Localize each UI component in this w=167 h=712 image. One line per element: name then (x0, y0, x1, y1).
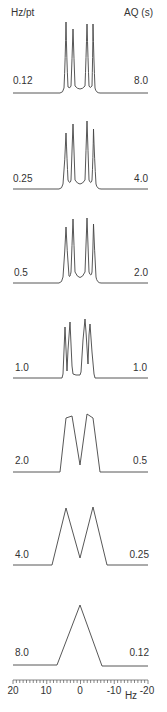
hz-per-pt-label: 1.0 (15, 362, 29, 373)
hz-per-pt-label: 0.5 (14, 267, 28, 278)
aq-label: 1.0 (133, 362, 147, 373)
x-tick-label: 0 (77, 685, 83, 696)
trace-7 (13, 605, 148, 666)
aq-label: 0.12 (130, 647, 150, 658)
aq-label: 0.25 (130, 549, 150, 560)
hz-per-pt-label: 8.0 (15, 647, 29, 658)
x-axis-unit-label: Hz (125, 690, 137, 701)
trace-3 (13, 218, 148, 283)
hz-per-pt-label: 0.25 (13, 173, 33, 184)
trace-5 (13, 414, 148, 472)
hz-per-pt-label: 0.12 (13, 75, 33, 86)
x-axis (13, 680, 148, 684)
spectra-chart: 0.12 8.0 0.25 4.0 0.5 2.0 1.0 1.0 2.0 0.… (0, 0, 167, 712)
x-tick-label: -20 (140, 685, 155, 696)
hz-per-pt-label: 2.0 (15, 455, 29, 466)
trace-1 (13, 22, 148, 93)
trace-2 (13, 121, 148, 189)
x-tick-label: 10 (40, 685, 52, 696)
x-tick-label: -10 (107, 685, 122, 696)
aq-label: 4.0 (134, 173, 148, 184)
trace-4 (13, 319, 148, 378)
trace-6 (13, 507, 148, 565)
x-tick-label: 20 (7, 685, 19, 696)
aq-label: 8.0 (134, 75, 148, 86)
aq-label: 0.5 (133, 455, 147, 466)
aq-label: 2.0 (134, 267, 148, 278)
hz-per-pt-label: 4.0 (15, 549, 29, 560)
